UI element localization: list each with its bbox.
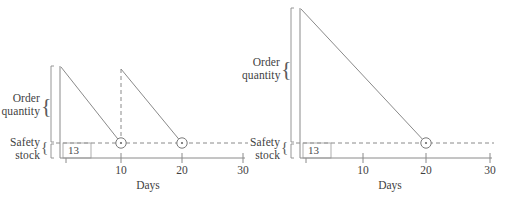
order-quantity-label-line2: quantity xyxy=(242,69,280,82)
safety-stock-span-bracket xyxy=(291,144,294,158)
boxed-value-13: 13 xyxy=(308,144,319,156)
chart-right-canvas xyxy=(252,0,505,197)
reorder-marker-day-10 xyxy=(116,138,126,148)
safety-stock-label-line2: stock xyxy=(242,149,280,162)
safety-stock-label-line1: Safety xyxy=(242,136,280,149)
order-quantity-label-line2: quantity xyxy=(0,105,40,118)
safety-stock-label-line1: Safety xyxy=(0,136,40,149)
boxed-value-13: 13 xyxy=(68,144,79,156)
inventory-chart-left: { { Order quantity Safety stock 13 10 20… xyxy=(0,0,253,197)
x-tick-label-20: 20 xyxy=(170,164,194,176)
x-axis-title: Days xyxy=(360,179,420,191)
depletion-line-cycle-1 xyxy=(61,67,121,143)
x-tick-label-10: 10 xyxy=(351,164,375,176)
order-quantity-label-line1: Order xyxy=(252,56,280,69)
x-tick-label-20: 20 xyxy=(414,164,438,176)
reorder-marker-day-20 xyxy=(421,138,431,148)
x-tick-label-10: 10 xyxy=(109,164,133,176)
safety-stock-label-line2: stock xyxy=(0,149,40,162)
safety-stock-span-bracket xyxy=(51,144,54,158)
x-tick-label-30: 30 xyxy=(478,164,502,176)
safety-stock-brace-icon: { xyxy=(281,140,288,155)
order-quantity-label-line1: Order xyxy=(0,92,40,105)
order-quantity-brace-icon: { xyxy=(41,95,52,117)
inventory-chart-right: { { Order quantity Safety stock 13 10 20… xyxy=(252,0,505,197)
depletion-line-cycle-2 xyxy=(121,69,182,143)
reorder-marker-day-20 xyxy=(177,138,187,148)
order-quantity-brace-icon: { xyxy=(281,58,292,80)
x-axis-title: Days xyxy=(118,179,178,191)
depletion-line-cycle-1 xyxy=(301,9,426,143)
safety-stock-brace-icon: { xyxy=(41,140,48,155)
